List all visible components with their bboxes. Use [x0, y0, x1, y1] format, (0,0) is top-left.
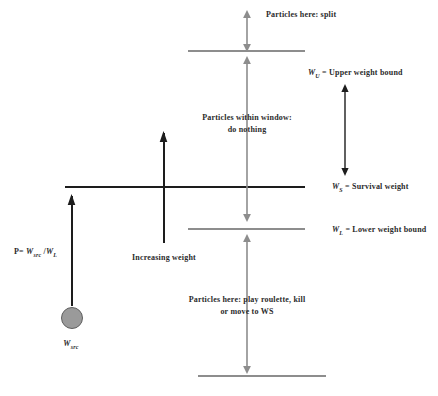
survival-weight-label: WS = Survival weight: [332, 181, 409, 196]
increasing-weight-axis-line: [163, 133, 165, 243]
window-region-double-arrow: [240, 56, 254, 222]
upper-weight-bound-label: WU = Upper weight bound: [308, 67, 403, 82]
upper-bound-text: = Upper weight bound: [320, 68, 403, 77]
source-particle-subscript: src: [71, 344, 79, 350]
source-particle-circle: [61, 307, 83, 329]
source-particle-axis-line: [71, 196, 73, 306]
increasing-weight-label: Increasing weight: [132, 252, 196, 263]
split-annotation: Particles here: split: [266, 9, 336, 20]
window-span-black-double-arrow: [338, 84, 352, 176]
formula-denominator-subscript: L: [53, 252, 57, 258]
split-region-double-arrow: [240, 10, 254, 52]
increasing-weight-arrowhead: [157, 131, 170, 143]
source-particle-arrowhead: [65, 194, 78, 206]
survival-text: = Survival weight: [343, 182, 409, 191]
roulette-annotation-line1: Particles here: play roulette, kill: [189, 294, 306, 305]
lower-bound-text: = Lower weight bound: [343, 225, 426, 234]
diagram-canvas: Particles here: split Particles within w…: [0, 0, 438, 396]
lower-weight-bound-label: WL = Lower weight bound: [332, 224, 427, 239]
roulette-annotation-line2: or move to WS: [220, 306, 273, 317]
formula-prefix: P=: [14, 247, 26, 256]
lower-weight-bound-line: [188, 228, 305, 230]
within-window-annotation-line2: do nothing: [228, 124, 267, 135]
bottom-boundary-line: [198, 375, 326, 377]
roulette-probability-formula: P= Wsrc /WL: [14, 246, 57, 261]
survival-weight-line: [65, 186, 305, 188]
source-particle-label: Wsrc: [63, 338, 78, 353]
within-window-annotation-line1: Particles within window:: [202, 112, 292, 123]
